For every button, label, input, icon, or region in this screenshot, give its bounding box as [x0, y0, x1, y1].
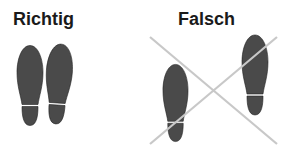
correct-left-shoe-icon [17, 46, 43, 126]
correct-right-shoe-icon [43, 43, 75, 125]
footprints-diagram [0, 0, 285, 151]
